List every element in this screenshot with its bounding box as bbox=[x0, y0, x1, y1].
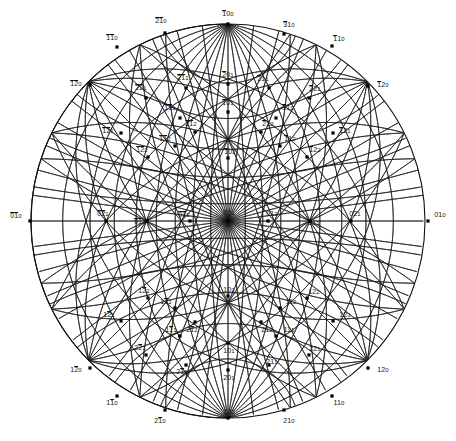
pole-point[interactable] bbox=[226, 294, 229, 297]
pole-point[interactable] bbox=[178, 334, 181, 337]
pole-point[interactable] bbox=[282, 408, 285, 411]
pole-point[interactable] bbox=[119, 319, 122, 322]
pole-point[interactable] bbox=[307, 353, 310, 356]
pole-point[interactable] bbox=[278, 306, 281, 309]
pole-point[interactable] bbox=[331, 131, 334, 134]
pole-point[interactable] bbox=[331, 319, 334, 322]
pole-point[interactable] bbox=[163, 31, 166, 34]
pole-point[interactable] bbox=[366, 84, 369, 87]
pole-point[interactable] bbox=[193, 130, 196, 133]
pole-point[interactable] bbox=[274, 334, 277, 337]
pole-point[interactable] bbox=[88, 83, 91, 86]
pole-point[interactable] bbox=[145, 219, 148, 222]
pole-point[interactable] bbox=[226, 22, 229, 25]
pole-point[interactable] bbox=[226, 341, 229, 344]
pole-point[interactable] bbox=[266, 219, 269, 222]
pole-point[interactable] bbox=[146, 296, 149, 299]
pole-point[interactable] bbox=[146, 155, 149, 158]
stereographic-projection-figure: 1002103101101101201202012112112212211011… bbox=[0, 0, 456, 441]
pole-point[interactable] bbox=[349, 219, 352, 222]
pole-point[interactable] bbox=[267, 86, 270, 89]
pole-point[interactable] bbox=[226, 368, 229, 371]
pole-point[interactable] bbox=[104, 219, 107, 222]
pole-point[interactable] bbox=[259, 130, 262, 133]
pole-point[interactable] bbox=[307, 96, 310, 99]
pole-point[interactable] bbox=[28, 219, 31, 222]
pole-point[interactable] bbox=[144, 96, 147, 99]
pole-point[interactable] bbox=[305, 296, 308, 299]
pole-point[interactable] bbox=[178, 116, 181, 119]
pole-point[interactable] bbox=[267, 363, 270, 366]
pole-point[interactable] bbox=[366, 366, 369, 369]
pole-point[interactable] bbox=[259, 320, 262, 323]
pole-point[interactable] bbox=[330, 44, 333, 47]
pole-point[interactable] bbox=[226, 110, 229, 113]
pole-point[interactable] bbox=[226, 416, 229, 419]
pole-point[interactable] bbox=[163, 408, 166, 411]
projection-net-svg bbox=[0, 0, 456, 441]
pole-point[interactable] bbox=[305, 155, 308, 158]
pole-point[interactable] bbox=[184, 86, 187, 89]
pole-point[interactable] bbox=[282, 32, 285, 35]
pole-point[interactable] bbox=[308, 219, 311, 222]
pole-point[interactable] bbox=[115, 45, 118, 48]
pole-point[interactable] bbox=[173, 144, 176, 147]
pole-point[interactable] bbox=[330, 394, 333, 397]
pole-point[interactable] bbox=[184, 363, 187, 366]
pole-point[interactable] bbox=[274, 116, 277, 119]
pole-point[interactable] bbox=[226, 219, 229, 222]
pole-point[interactable] bbox=[188, 219, 191, 222]
pole-point[interactable] bbox=[119, 131, 122, 134]
pole-point[interactable] bbox=[426, 219, 429, 222]
pole-point[interactable] bbox=[88, 366, 91, 369]
pole-point[interactable] bbox=[115, 394, 118, 397]
pole-point[interactable] bbox=[144, 353, 147, 356]
pole-point[interactable] bbox=[226, 156, 229, 159]
pole-point[interactable] bbox=[278, 144, 281, 147]
pole-point[interactable] bbox=[173, 306, 176, 309]
pole-point[interactable] bbox=[226, 82, 229, 85]
pole-point[interactable] bbox=[193, 320, 196, 323]
